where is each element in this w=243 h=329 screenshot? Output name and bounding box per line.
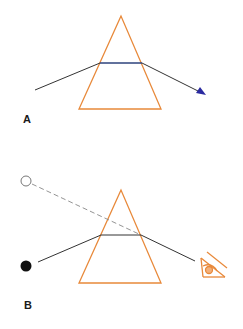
panel-label-a: A [23,113,31,125]
dashed-ray [32,184,141,235]
panel-a [35,16,206,109]
prism-diagram [0,0,243,329]
real-object-filled-circle [21,261,32,272]
prism-b [79,190,161,283]
ray-a [35,63,200,92]
arrow-head-icon [196,87,206,95]
eye-icon [201,252,227,277]
ray-b [38,235,195,262]
virtual-image-open-circle [21,176,31,186]
panel-b [21,176,228,283]
panel-label-b: B [24,299,32,311]
